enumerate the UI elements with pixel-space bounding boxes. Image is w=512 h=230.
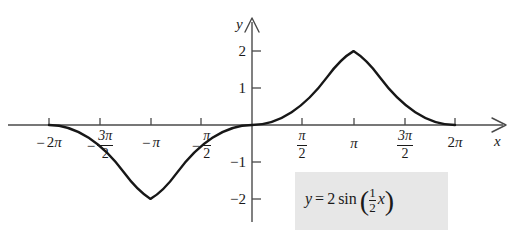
x-tick-neg-pi-2-denominator: 2 [202, 146, 211, 162]
x-tick-pi-2-numerator: π [297, 129, 306, 144]
equation-amplitude: 2 [327, 190, 335, 207]
x-tick-neg-3pi-2-numerator: 3π [97, 129, 113, 144]
y-axis-label: y [236, 17, 243, 32]
x-tick-2pi-symbol: π [455, 134, 463, 150]
x-tick-neg-pi-sign: − [142, 136, 152, 151]
x-tick-label-neg-3pi-2: − 3π 2 [70, 130, 130, 163]
x-tick-label-neg-pi-2: − π 2 [174, 130, 229, 163]
x-axis-label: x [494, 134, 501, 149]
function-graph-figure: _ _ y x [0, 0, 512, 230]
x-tick-label-neg-pi: −π [126, 135, 176, 151]
equation-callout-text: y=2sin( 1 2 x) [305, 186, 394, 216]
x-tick-neg-3pi-2-sign: − [87, 139, 97, 154]
x-tick-neg-2pi-sign: − [36, 136, 46, 151]
equation-equals: = [312, 190, 327, 207]
equation-paren-open: ( [360, 191, 369, 211]
x-tick-neg-pi-symbol: π [152, 134, 160, 150]
x-tick-neg-pi-2-numerator: π [202, 129, 211, 144]
y-tick-label-2: 2 [222, 44, 246, 59]
x-tick-pi-2-denominator: 2 [297, 146, 306, 162]
equation-frac-denominator: 2 [369, 201, 376, 216]
x-tick-label-pi-2: π 2 [282, 130, 322, 163]
x-tick-label-3pi-2: 3π 2 [383, 130, 427, 163]
x-tick-label-2pi: 2π [433, 135, 477, 150]
equation-paren-close: ) [385, 191, 394, 211]
y-tick-label-neg2: −2 [216, 192, 246, 207]
x-tick-label-pi: π [334, 136, 374, 151]
x-tick-neg-2pi-symbol: π [54, 134, 62, 150]
x-tick-3pi-2-numerator: 3π [397, 129, 413, 144]
equation-variable: x [376, 190, 385, 207]
x-tick-3pi-2-denominator: 2 [397, 146, 413, 162]
x-tick-neg-pi-2-sign: − [192, 139, 202, 154]
x-tick-2pi-coefficient: 2 [447, 134, 455, 150]
x-tick-neg-3pi-2-denominator: 2 [97, 146, 113, 162]
equation-function: sin [335, 190, 360, 207]
equation-frac-numerator: 1 [369, 186, 376, 200]
y-tick-label-1: 1 [222, 81, 246, 96]
